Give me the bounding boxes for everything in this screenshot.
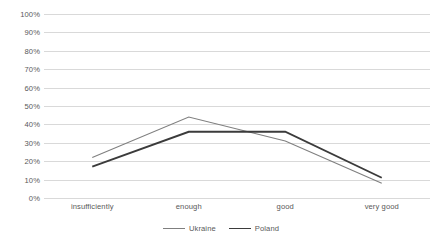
x-axis-tick-label: very good xyxy=(365,202,399,211)
legend-line-icon xyxy=(163,228,185,229)
y-axis-tick-label: 60% xyxy=(4,83,40,92)
y-axis-tick-label: 40% xyxy=(4,120,40,129)
y-axis-tick-label: 90% xyxy=(4,28,40,37)
x-axis: insufficientlyenoughgoodvery good xyxy=(44,202,430,218)
legend-label: Poland xyxy=(255,224,279,233)
y-axis-tick-label: 20% xyxy=(4,157,40,166)
plot-area xyxy=(44,14,430,198)
x-axis-tick-label: enough xyxy=(176,202,202,211)
y-axis-tick-label: 30% xyxy=(4,138,40,147)
series-layer xyxy=(44,14,430,198)
y-axis-tick-label: 0% xyxy=(4,194,40,203)
x-axis-tick-label: good xyxy=(277,202,294,211)
legend-line-icon xyxy=(229,228,251,229)
legend-label: Ukraine xyxy=(189,224,216,233)
y-axis: 100%90%80%70%60%50%40%30%20%10%0% xyxy=(0,14,40,198)
y-axis-tick-label: 70% xyxy=(4,65,40,74)
y-axis-tick-label: 10% xyxy=(4,175,40,184)
chart-legend: UkrainePoland xyxy=(0,224,442,233)
x-axis-tick-label: insufficiently xyxy=(71,202,114,211)
y-axis-tick-label: 50% xyxy=(4,102,40,111)
y-axis-tick-label: 100% xyxy=(4,10,40,19)
gridline-0% xyxy=(44,198,430,199)
legend-entry-ukraine[interactable]: Ukraine xyxy=(163,224,216,233)
series-line-poland xyxy=(92,132,382,178)
y-axis-tick-label: 80% xyxy=(4,46,40,55)
legend-entry-poland[interactable]: Poland xyxy=(229,224,279,233)
line-chart: 100%90%80%70%60%50%40%30%20%10%0% insuff… xyxy=(0,0,442,247)
